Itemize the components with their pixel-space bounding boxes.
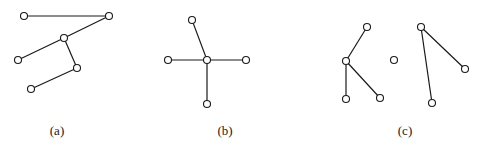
graph-edge (64, 16, 109, 38)
graph-node (377, 95, 384, 102)
graph-node (15, 57, 22, 64)
graph-node (189, 17, 196, 24)
graph-edge (192, 20, 207, 60)
graph-node (364, 24, 371, 31)
graph-edge (346, 27, 367, 61)
graph-node (391, 57, 398, 64)
graph-node (343, 58, 350, 65)
graph-node (204, 101, 211, 108)
graph-node (243, 57, 250, 64)
graph-node (204, 57, 211, 64)
graph-edge (18, 38, 64, 60)
graph-edge (421, 27, 465, 69)
panel-b-label: (b) (217, 123, 232, 138)
graph-figure: (a) (b) (c) (0, 0, 478, 148)
graph-node (418, 24, 425, 31)
graph-node (429, 100, 436, 107)
graph-edge (31, 68, 77, 89)
graph-edge (346, 61, 380, 98)
graph-node (462, 66, 469, 73)
panel-c-label: (c) (398, 123, 412, 138)
graph-node (28, 86, 35, 93)
graph-node (21, 13, 28, 20)
panel-b-graph: (b) (165, 17, 250, 139)
graph-node (74, 65, 81, 72)
graph-node (61, 35, 68, 42)
graph-node (106, 13, 113, 20)
graph-node (165, 57, 172, 64)
panel-c-graph: (c) (343, 24, 469, 139)
graph-edge (64, 38, 77, 68)
graph-edge (421, 27, 432, 103)
graph-node (343, 96, 350, 103)
panel-a-graph: (a) (15, 13, 113, 139)
panel-a-label: (a) (50, 123, 64, 138)
